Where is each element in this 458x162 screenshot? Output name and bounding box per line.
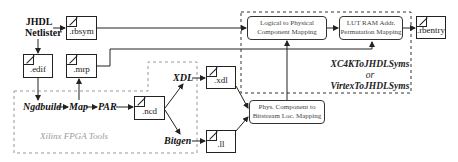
file-ll: .ll bbox=[206, 130, 236, 153]
file-rbsym-label: .rbsym bbox=[67, 26, 96, 36]
process-lut-line2: Permutation Mapping bbox=[340, 28, 401, 37]
file-mrp-label: .mrp bbox=[67, 64, 96, 74]
xilinx-group-label: Xilinx FPGA Tools bbox=[40, 131, 108, 141]
converter-label-line2: or bbox=[322, 70, 418, 81]
tool-map: Map bbox=[69, 101, 88, 112]
jhdl-label-line2: Netlister bbox=[25, 27, 53, 38]
file-edif: .edif bbox=[23, 54, 53, 78]
file-ncd: .ncd bbox=[134, 96, 165, 120]
file-ll-label: .ll bbox=[207, 139, 235, 149]
jhdl-netlister-label: JHDL Netlister bbox=[25, 16, 53, 38]
file-rbentry: .rbentry bbox=[416, 16, 446, 39]
file-xdl-label: .xdl bbox=[207, 75, 235, 85]
tool-xdl: XDL bbox=[173, 72, 193, 83]
file-rbsym: .rbsym bbox=[66, 16, 97, 40]
process-phys-line1: Phys. Component to bbox=[253, 103, 322, 112]
process-phys-to-bitstream: Phys. Component to Bitstream Loc. Mappin… bbox=[249, 100, 325, 124]
converter-group-label: XC4KToJHDLSyms or VirtexToJHDLSyms bbox=[322, 59, 418, 92]
process-lut-line1: LUT RAM Addr. bbox=[340, 19, 401, 28]
converter-label-line1: XC4KToJHDLSyms bbox=[322, 59, 418, 70]
file-xdl: .xdl bbox=[206, 66, 236, 89]
tool-bitgen: Bitgen bbox=[164, 135, 191, 146]
process-logical-to-physical: Logical to Physical Component Mapping bbox=[247, 16, 327, 40]
file-rbentry-label: .rbentry bbox=[415, 25, 447, 35]
process-lut-ram-mapping: LUT RAM Addr. Permutation Mapping bbox=[339, 16, 403, 40]
process-logical-line1: Logical to Physical bbox=[257, 19, 317, 28]
tool-ngdbuild: Ngdbuild bbox=[23, 101, 61, 112]
file-edif-label: .edif bbox=[24, 64, 52, 74]
jhdl-label-line1: JHDL bbox=[25, 16, 53, 27]
file-ncd-label: .ncd bbox=[135, 106, 164, 116]
process-logical-line2: Component Mapping bbox=[257, 28, 317, 37]
file-mrp: .mrp bbox=[66, 54, 97, 78]
converter-label-line3: VirtexToJHDLSyms bbox=[322, 81, 418, 92]
process-phys-line2: Bitstream Loc. Mapping bbox=[253, 112, 322, 121]
flow-diagram: JHDL Netlister .rbsym .edif .mrp .ncd .x… bbox=[0, 0, 458, 162]
tool-par: PAR bbox=[98, 101, 117, 112]
